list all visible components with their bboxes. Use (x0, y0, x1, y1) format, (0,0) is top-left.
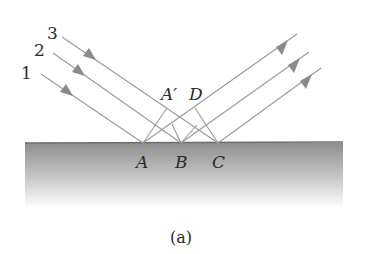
arrow-icon (83, 48, 96, 60)
wavefront-CD (195, 108, 218, 143)
surface-edge (25, 142, 343, 143)
arrow-icon (300, 74, 312, 89)
ray-label-1: 1 (21, 63, 32, 83)
ray-label-2: 2 (34, 40, 45, 60)
incident-ray-1 (41, 74, 143, 143)
figure-caption: (a) (170, 228, 192, 247)
point-label-a-prime: A′ (159, 84, 177, 104)
point-label-c: C (212, 152, 225, 172)
arrow-icon (276, 40, 288, 55)
wavefront-AA-prime (143, 108, 167, 143)
arrow-icon (72, 64, 85, 76)
ray-label-3: 3 (47, 23, 58, 43)
point-label-a: A (134, 152, 148, 172)
reflection-diagram: 1 2 3 A′ D A B C (a) (0, 0, 367, 254)
arrow-icon (60, 84, 73, 96)
arrow-icon (288, 58, 300, 73)
point-label-d: D (188, 84, 203, 104)
point-label-b: B (174, 152, 188, 172)
